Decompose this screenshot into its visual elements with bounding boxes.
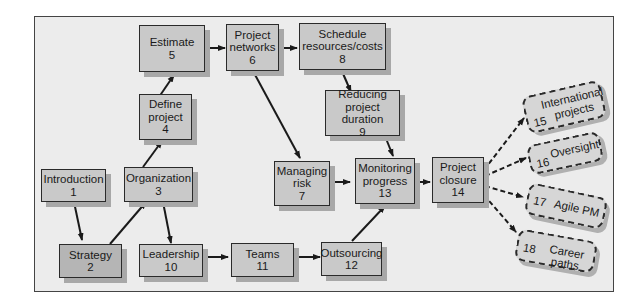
node-label: networks — [229, 41, 275, 54]
node-estimate: Estimate 5 — [139, 25, 205, 72]
node-number: 13 — [379, 187, 392, 200]
node-label: Oversight — [547, 137, 602, 160]
node-introduction: Introduction 1 — [41, 169, 106, 202]
node-project-closure: Project closure 14 — [432, 157, 484, 203]
node-number: 10 — [165, 261, 178, 274]
node-label: resources/costs — [302, 40, 383, 53]
node-schedule-resources: Schedule resources/costs 8 — [299, 23, 386, 70]
node-managing-risk: Managing risk 7 — [274, 161, 330, 206]
node-number: 14 — [452, 186, 465, 199]
node-label: risk — [293, 177, 311, 190]
node-label: Estimate — [150, 36, 195, 49]
node-project-networks: Project networks 6 — [226, 24, 279, 71]
node-number: 1 — [70, 186, 76, 199]
node-label: Strategy — [69, 249, 112, 262]
node-organization: Organization 3 — [124, 167, 193, 202]
node-leadership: Leadership 10 — [139, 244, 203, 277]
node-number: 8 — [339, 53, 345, 66]
node-label: Outsourcing — [321, 247, 383, 260]
node-label: Leadership — [143, 248, 200, 261]
node-number: 11 — [257, 260, 269, 273]
node-label: closure — [439, 174, 476, 187]
node-label: Schedule — [319, 28, 367, 41]
node-number: 4 — [162, 123, 168, 136]
node-number: 15 — [533, 114, 548, 129]
node-number: 5 — [169, 49, 175, 62]
node-label: project — [148, 111, 183, 124]
node-label: Introduction — [43, 173, 103, 186]
node-number: 7 — [299, 190, 305, 203]
node-number: 3 — [155, 185, 161, 198]
node-strategy: Strategy 2 — [59, 244, 122, 278]
node-label: Project — [440, 161, 476, 174]
node-label: progress — [363, 175, 408, 188]
node-label: project duration — [326, 101, 399, 126]
node-monitoring-progress: Monitoring progress 13 — [355, 158, 415, 204]
node-outsourcing: Outsourcing 12 — [321, 242, 382, 276]
node-number: 16 — [535, 156, 550, 170]
node-label: Organization — [126, 172, 191, 185]
node-number: 12 — [345, 259, 358, 272]
node-label: Reducing — [338, 88, 387, 101]
node-reducing-duration: Reducing project duration 9 — [325, 90, 400, 136]
node-define-project: Define project 4 — [139, 94, 192, 140]
node-number: 18 — [522, 241, 537, 255]
node-number: 6 — [249, 54, 255, 67]
node-label: Project — [235, 29, 271, 42]
node-label: Teams — [246, 248, 280, 261]
node-teams: Teams 11 — [231, 243, 294, 277]
node-number: 2 — [87, 261, 93, 274]
node-label: Agile PM — [547, 196, 606, 220]
node-number: 17 — [532, 194, 547, 208]
node-label: Monitoring — [358, 162, 412, 175]
node-label: Managing — [277, 165, 328, 178]
node-number: 9 — [359, 126, 365, 139]
node-label: Define — [149, 98, 182, 111]
